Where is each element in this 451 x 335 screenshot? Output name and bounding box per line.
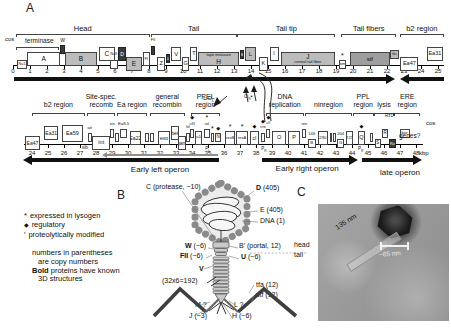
region-label: Site-spec.: [86, 93, 117, 100]
operon-arrowhead: [349, 155, 358, 165]
region-brace: [305, 113, 352, 116]
gene-FI: FI: [143, 52, 151, 66]
kb-number: 21: [363, 68, 377, 74]
electron-micrograph: ~65 nm 135 nm: [318, 204, 449, 321]
gene-orf: [333, 133, 336, 142]
kb-number: 43: [329, 150, 343, 156]
operon-arrowhead: [386, 74, 395, 84]
region-brace: [87, 113, 115, 116]
map-label: terminase: [25, 38, 54, 45]
gene-orf: [115, 133, 119, 142]
gene-L: L: [245, 47, 257, 61]
promoter-label: PR: [261, 147, 266, 153]
gene-N: N: [215, 133, 220, 142]
panel-b-label: B: [117, 189, 125, 201]
kb-number: 8: [142, 68, 156, 74]
kb-tick: [160, 145, 161, 148]
gene-orf: [150, 133, 154, 142]
gene-Ea31: Ea31: [44, 126, 58, 140]
promoter-label: PR': [358, 147, 364, 153]
gene-orf: [145, 133, 149, 142]
gene-cIII: [190, 129, 194, 138]
gene-label: xis: [110, 122, 115, 126]
operon-arrowhead: [413, 155, 422, 165]
region-label: Tail tip: [276, 25, 297, 33]
kb-number: 40: [281, 150, 295, 156]
tail-length-label: 135 nm: [334, 212, 357, 231]
region-brace: [117, 113, 147, 116]
gene-A: A: [27, 52, 59, 66]
region-brace: [341, 34, 396, 37]
gene-Ea22: Ea22: [130, 131, 142, 145]
kb-tick: [144, 145, 145, 148]
gene-J: Jcentral tail fiber: [281, 52, 335, 66]
kb-tick: [240, 145, 241, 148]
map-label: sib: [82, 146, 88, 151]
kb-number: 47: [393, 150, 407, 156]
gene-int: int: [92, 136, 110, 150]
region-label: Head: [74, 25, 92, 33]
gene-tfa: tfa: [390, 50, 399, 59]
gene-V: V: [171, 47, 181, 61]
promoter-label: PL: [205, 147, 210, 153]
kb-number: 42: [313, 150, 327, 156]
gene-Ea10: Ea10: [195, 131, 202, 145]
kb-tick: [224, 145, 225, 148]
kb-tick: [384, 145, 385, 148]
gene-I: I: [270, 47, 279, 61]
gene-lom: lom: [339, 60, 346, 69]
gene-label: Ea8.5: [118, 122, 129, 126]
region-brace: [353, 113, 374, 116]
scale-bar: [381, 245, 408, 247]
gene-kil: [186, 133, 190, 142]
legend-symbol-line: ′proteolytically modified: [24, 231, 104, 239]
gene-label: 204: [337, 132, 344, 136]
region-label: region: [353, 101, 372, 108]
gene-Ea31: Ea31: [427, 47, 443, 61]
gene-Nu1: Nu1: [17, 60, 28, 69]
operon-label: Early right operon: [276, 165, 339, 173]
kb-number: 41: [297, 150, 311, 156]
region-brace: [151, 34, 237, 37]
legend-symbol-line: *expressed in lysogen: [24, 212, 100, 220]
gene-G: G: [337, 139, 344, 148]
gene-cI: cI: [250, 131, 259, 145]
map-label: cos: [5, 36, 14, 42]
gene-exo: exo: [158, 131, 170, 145]
gene-label: W: [60, 38, 65, 43]
operon-arrow: [362, 158, 414, 162]
gene-Nu3: [110, 60, 118, 69]
gene-H: tape measureH: [198, 52, 239, 66]
region-label: PPL: [357, 93, 370, 100]
kb-tick: [176, 145, 177, 148]
scale-bar-tick-left: [380, 242, 382, 250]
map-label: cos: [426, 120, 435, 126]
gene-221: 221: [346, 131, 353, 145]
operon-arrow: [262, 158, 350, 162]
legend-note-line: Bold proteins have known: [32, 267, 120, 275]
gene-Ea47: Ea47: [400, 57, 418, 71]
gene-cro: [261, 133, 265, 142]
scale-label: ~65 nm: [379, 250, 401, 258]
kb-tick: [400, 145, 401, 148]
region-label: b2 region: [406, 25, 437, 33]
kb-number: 39: [265, 150, 279, 156]
kb-number: 25: [431, 68, 445, 74]
kb-number: 5: [91, 68, 105, 74]
region-brace: [150, 113, 185, 116]
kb-tick: [352, 145, 353, 148]
gene-E: E: [126, 57, 142, 71]
portal-neck-icon: [213, 242, 229, 256]
gene-O: O: [272, 131, 287, 145]
tail-rings-icon: [213, 257, 229, 294]
gene-G: G: [182, 57, 189, 71]
gene-label: kil: [186, 126, 190, 130]
gene-gam: gam: [178, 136, 185, 150]
operon-arrowhead: [400, 74, 409, 84]
panel-a-label: A: [26, 2, 34, 14]
gene-R: R: [382, 129, 389, 138]
gene-U: U: [166, 54, 171, 63]
kb-tick: [368, 145, 369, 148]
region-label: b2 region: [44, 101, 73, 108]
marker-regulatory: ◆: [359, 124, 363, 129]
